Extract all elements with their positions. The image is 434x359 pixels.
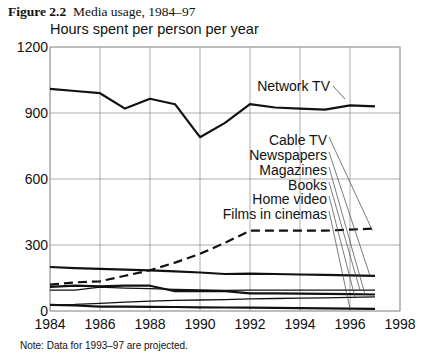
x-tick-label: 1988: [134, 316, 165, 332]
series-line-books: [50, 287, 375, 290]
series-label: Home video: [252, 191, 327, 207]
leader-line: [333, 86, 345, 99]
x-tick-label: 1990: [184, 316, 215, 332]
line-chart: 0300600900120019841986198819901992199419…: [0, 0, 434, 359]
series-line-home-video: [50, 297, 375, 305]
y-tick-label: 1200: [17, 39, 48, 55]
leader-line: [329, 152, 370, 276]
x-tick-label: 1992: [234, 316, 265, 332]
series-line-newspapers: [50, 267, 375, 276]
series-label: Films in cinemas: [223, 206, 327, 222]
x-tick-label: 1994: [284, 316, 315, 332]
y-tick-label: 600: [25, 171, 49, 187]
series-line-cable-tv: [50, 229, 375, 285]
x-tick-label: 1986: [84, 316, 115, 332]
x-tick-label: 1984: [34, 316, 65, 332]
series-label: Newspapers: [249, 147, 327, 163]
series-label: Cable TV: [269, 132, 328, 148]
series-label: Magazines: [259, 162, 327, 178]
y-tick-label: 300: [25, 237, 49, 253]
x-tick-label: 1996: [334, 316, 365, 332]
series-label: Network TV: [257, 78, 331, 94]
figure-note: Note: Data for 1993–97 are projected.: [20, 340, 188, 351]
y-tick-label: 900: [25, 105, 49, 121]
series-line-films-in-cinemas: [50, 305, 375, 309]
x-tick-label: 1998: [384, 316, 415, 332]
leader-line: [329, 196, 355, 297]
